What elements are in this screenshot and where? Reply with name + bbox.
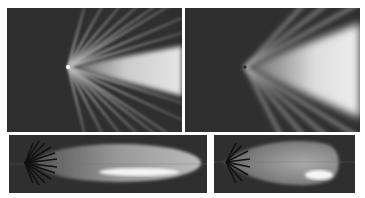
ray-fan-image [7,8,182,132]
panel-bottom-left: Elongated elliptical plume with dark rad… [9,135,207,193]
elongated-plume-image [9,135,207,193]
panel-bottom-right: Shorter teardrop plume with dark spokes … [214,135,355,193]
panel-top-right: Wider, smoother cone of light spreading … [185,8,360,132]
cone-spread-image [185,8,360,132]
teardrop-plume-image [214,135,355,193]
panel-top-left: Fan of bright rays emerging from a point… [7,8,182,132]
